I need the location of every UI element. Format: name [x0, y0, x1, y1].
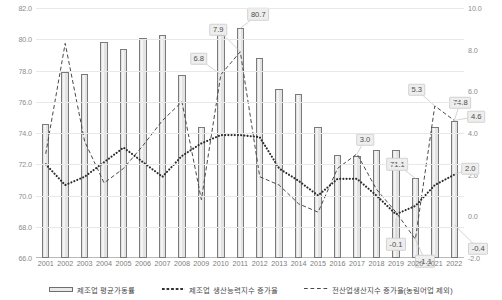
left-axis-tick: 78.0: [18, 66, 32, 75]
left-y-axis: 66.068.070.072.074.076.078.080.082.0: [0, 8, 32, 258]
left-axis-tick: 68.0: [18, 222, 32, 231]
gridline: [36, 164, 464, 165]
chart-container: 66.068.070.072.074.076.078.080.082.0 -2.…: [0, 0, 502, 300]
x-axis-tick-label: 2020: [407, 259, 423, 268]
legend-item-label: 제조업 평균가동률: [77, 284, 135, 295]
bar-swatch-icon: [49, 285, 73, 293]
x-axis-labels: 2001200220032004200520062007200820092010…: [36, 259, 464, 273]
left-axis-tick: 66.0: [18, 254, 32, 263]
left-axis-tick: 72.0: [18, 160, 32, 169]
x-axis-tick-label: 2009: [193, 259, 209, 268]
x-axis-tick-label: 2014: [291, 259, 307, 268]
right-axis-tick: 10.0: [468, 4, 482, 13]
dotted-line-manufacturing-capacity-growth: [46, 135, 455, 214]
legend-item[interactable]: 제조업 생산능력지수 증가율: [161, 284, 277, 295]
x-axis-tick-label: 2022: [446, 259, 462, 268]
x-axis-tick-label: 2013: [271, 259, 287, 268]
gridline: [36, 8, 464, 9]
legend-item[interactable]: 제조업 평균가동률: [49, 284, 135, 295]
left-axis-tick: 74.0: [18, 129, 32, 138]
x-axis-tick-label: 2006: [135, 259, 151, 268]
x-axis-tick-label: 2001: [38, 259, 54, 268]
data-label-callout: 2.0: [461, 162, 479, 174]
gridline: [36, 133, 464, 134]
x-axis-tick-label: 2019: [388, 259, 404, 268]
right-axis-tick: 6.0: [468, 87, 478, 96]
x-axis-tick-label: 2012: [252, 259, 268, 268]
data-label-callout: -0.4: [468, 242, 488, 254]
data-label-callout: 5.3: [408, 84, 426, 96]
x-axis-tick-label: 2003: [77, 259, 93, 268]
data-label-callout: 3.0: [356, 134, 374, 146]
right-axis-tick: 8.0: [468, 45, 478, 54]
legend-marker-glyph: [49, 287, 73, 292]
left-axis-tick: 70.0: [18, 191, 32, 200]
x-axis-tick-label: 2002: [57, 259, 73, 268]
x-axis-tick-label: 2005: [116, 259, 132, 268]
data-label-callout: 7.9: [209, 24, 227, 36]
left-axis-tick: 80.0: [18, 35, 32, 44]
legend-item[interactable]: 전산업생산지수 증가율(농림어업 제외): [304, 284, 453, 295]
chart-legend: 제조업 평균가동률제조업 생산능력지수 증가율전산업생산지수 증가율(농림어업 …: [0, 281, 502, 297]
right-axis-tick: 0.0: [468, 212, 478, 221]
data-label-callout: 6.8: [190, 52, 208, 64]
legend-marker-glyph: [161, 288, 185, 290]
right-y-axis: -2.00.02.04.06.08.010.0: [468, 8, 502, 258]
x-axis-tick-label: 2018: [368, 259, 384, 268]
legend-marker-glyph: [304, 288, 328, 289]
data-label-callout: 4.6: [467, 110, 485, 122]
x-axis-tick-label: 2017: [349, 259, 365, 268]
x-axis-tick-label: 2008: [174, 259, 190, 268]
data-label-callout: 80.7: [247, 8, 269, 20]
dashed-line-swatch-icon: [304, 285, 328, 293]
x-axis-tick-label: 2004: [96, 259, 112, 268]
x-axis-tick-label: 2007: [154, 259, 170, 268]
x-axis-tick-label: 2016: [330, 259, 346, 268]
gridline: [36, 39, 464, 40]
right-axis-tick: 4.0: [468, 129, 478, 138]
gridline: [36, 227, 464, 228]
gridline: [36, 71, 464, 72]
dotted-line-swatch-icon: [161, 285, 185, 293]
x-axis-tick-label: 2021: [427, 259, 443, 268]
right-axis-tick: -2.0: [468, 254, 480, 263]
left-axis-tick: 82.0: [18, 4, 32, 13]
legend-item-label: 전산업생산지수 증가율(농림어업 제외): [332, 284, 453, 295]
left-axis-tick: 76.0: [18, 97, 32, 106]
data-label-callout: -0.1: [386, 238, 406, 250]
gridline: [36, 196, 464, 197]
legend-item-label: 제조업 생산능력지수 증가율: [189, 284, 277, 295]
x-axis-tick-label: 2010: [213, 259, 229, 268]
plot-area: 7.96.880.73.0-0.15.371.1-1.174.84.62.0-0…: [36, 8, 464, 258]
gridline: [36, 102, 464, 103]
dashed-line-all-industry-production-growth: [46, 43, 455, 239]
x-axis-tick-label: 2015: [310, 259, 326, 268]
x-axis-tick-label: 2011: [233, 259, 248, 268]
